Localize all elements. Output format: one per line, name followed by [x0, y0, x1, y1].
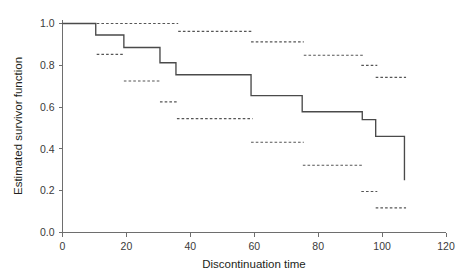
x-tick-label: 100 [373, 240, 391, 252]
survival-plot-figure: 0.00.20.40.60.81.0 020406080100120 Disco… [0, 0, 474, 280]
survivor-step-curve [63, 24, 405, 181]
y-tick-label: 0.2 [40, 184, 55, 196]
x-tick-label: 0 [60, 240, 66, 252]
x-axis-ticks: 020406080100120 [60, 233, 455, 252]
x-tick-label: 120 [437, 240, 455, 252]
x-tick-label: 60 [248, 240, 260, 252]
x-tick-label: 80 [312, 240, 324, 252]
x-tick-label: 20 [121, 240, 133, 252]
survival-plot-canvas: 0.00.20.40.60.81.0 020406080100120 Disco… [0, 0, 474, 280]
confidence-band-upper [97, 24, 406, 78]
x-axis-title: Discontinuation time [202, 258, 306, 270]
y-tick-label: 0.4 [40, 143, 55, 155]
y-axis-title: Estimated survivor function [12, 57, 24, 195]
y-tick-label: 0.0 [40, 226, 55, 238]
y-axis-ticks: 0.00.20.40.60.81.0 [40, 17, 63, 238]
y-tick-label: 1.0 [40, 17, 55, 29]
y-tick-label: 0.8 [40, 59, 55, 71]
y-tick-label: 0.6 [40, 101, 55, 113]
x-tick-label: 40 [184, 240, 196, 252]
